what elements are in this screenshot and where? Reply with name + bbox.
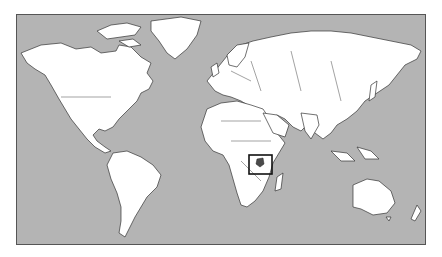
southeast-asia-islands — [331, 147, 379, 161]
tasmania — [386, 217, 391, 221]
india — [301, 113, 319, 139]
world-map-svg — [17, 15, 426, 245]
greenland — [151, 17, 201, 59]
north-america — [21, 43, 153, 153]
australia — [353, 179, 395, 215]
new-zealand — [411, 205, 421, 221]
madagascar — [275, 173, 283, 191]
arctic-islands — [97, 23, 141, 47]
south-america — [107, 151, 161, 237]
world-map — [16, 14, 426, 245]
